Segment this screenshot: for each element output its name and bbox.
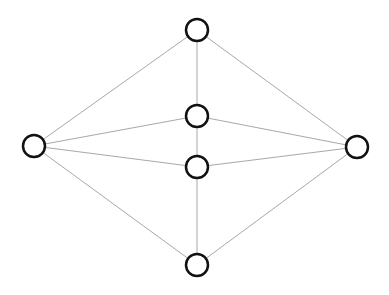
node-mid-upper: [186, 105, 208, 127]
node-left: [23, 135, 45, 157]
edge-mid-upper-right: [197, 116, 357, 147]
nodes-group: [23, 19, 368, 276]
edge-bottom-right: [197, 147, 357, 265]
node-top: [186, 19, 208, 41]
node-mid-lower: [186, 156, 208, 178]
edge-top-right: [197, 30, 357, 147]
edge-mid-upper-left: [34, 116, 197, 146]
edges-group: [34, 30, 357, 265]
edge-mid-lower-right: [197, 147, 357, 167]
node-bottom: [186, 254, 208, 276]
edge-top-left: [34, 30, 197, 146]
graph-diagram: [0, 0, 389, 295]
node-right: [346, 136, 368, 158]
